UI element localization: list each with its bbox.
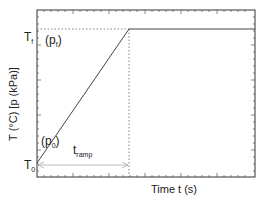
t-ramp-label: tramp (73, 143, 92, 159)
pf-label: (pf) (45, 33, 62, 48)
right-axis-ticks (251, 17, 255, 171)
t-ramp-double-arrow (38, 162, 128, 168)
tf-label: Tf (24, 30, 33, 45)
ramp-hold-profile-line (37, 29, 255, 163)
plot-frame (37, 10, 255, 177)
t0-label: T0 (24, 158, 35, 173)
top-axis-ticks (44, 10, 245, 14)
y-axis-title: T (°C) [p (kPa)] (7, 67, 19, 141)
x-axis-title: Time t (s) (151, 183, 197, 195)
p0-label: (p0) (41, 134, 60, 149)
ramp-diagram: Tf (pf) T0 (p0) tramp T (°C) [p (kPa)] T… (0, 0, 262, 206)
bottom-axis-ticks (44, 173, 245, 177)
